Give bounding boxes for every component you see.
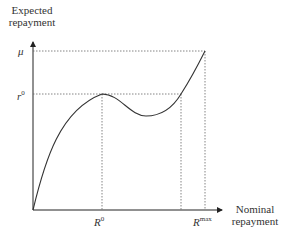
R0-symbol: R [94, 216, 101, 228]
x-axis-label-line1: Nominal [226, 203, 284, 215]
R0-superscript: 0 [101, 215, 105, 223]
Rmax-symbol: R [193, 216, 200, 228]
mu-tick-label: μ [18, 45, 24, 57]
y-axis-label-line2: repayment [0, 16, 64, 28]
mu-symbol: μ [18, 45, 24, 57]
R0-tick-label: R0 [94, 213, 104, 228]
expected-repayment-diagram [0, 0, 284, 237]
y-axis-label: Expected repayment [0, 4, 64, 28]
Rmax-superscript: max [200, 215, 212, 223]
expected-repayment-curve [33, 51, 205, 210]
r0-tick-label: r0 [17, 87, 25, 102]
x-axis-label-line2: repayment [226, 215, 284, 227]
r-superscript: 0 [21, 89, 25, 97]
x-axis-label: Nominal repayment [226, 203, 284, 227]
y-axis-label-line1: Expected [0, 4, 64, 16]
Rmax-tick-label: Rmax [193, 213, 212, 228]
